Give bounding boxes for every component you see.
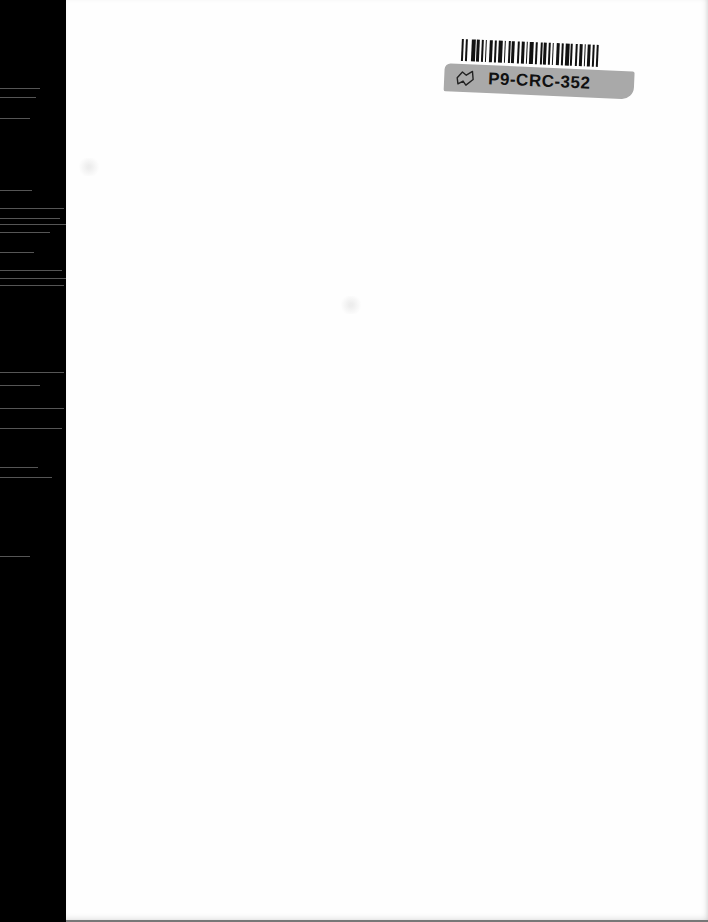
scan-streak [0,477,52,478]
sticker-label-band: P9-CRC-352 [444,63,635,99]
scan-streak [0,208,64,209]
scan-streak [0,467,38,468]
scan-streak [0,97,36,98]
scan-streak [0,278,66,279]
scan-edge-border [0,0,66,922]
scan-streak [0,270,62,271]
barcode-sticker: P9-CRC-352 [437,36,670,116]
scan-streak [0,118,30,119]
scan-speck [74,158,104,176]
scan-streak [0,190,32,191]
scan-streak [0,372,64,373]
scan-streak [0,88,40,89]
scan-streak [0,408,64,409]
scan-streak [0,385,40,386]
flag-outline-icon [454,69,477,88]
scan-speck [336,296,366,314]
scan-streak [0,252,34,253]
scan-streak [0,428,62,429]
blank-page [66,0,708,922]
scan-streak [0,285,64,286]
scan-streak [0,224,66,225]
barcode [461,39,622,68]
scan-streak [0,232,50,233]
scan-streak [0,218,60,219]
sticker-code: P9-CRC-352 [488,69,591,93]
scan-streak [0,556,30,557]
